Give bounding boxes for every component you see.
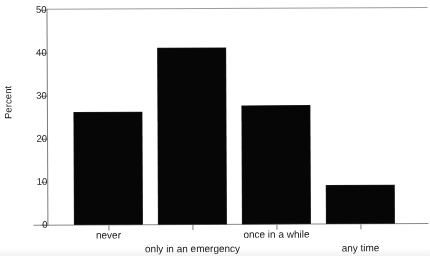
bar-any-time (326, 185, 394, 223)
x-axis-label-only-in-an-emergency: only in an emergency (118, 243, 268, 255)
bar-chart-figure: Percent 0 10 20 30 40 50 never only in a… (0, 0, 430, 256)
y-tick-label-30: 30 (25, 91, 47, 100)
x-tick-mark-any-time (360, 224, 361, 229)
y-axis-title: Percent (2, 72, 13, 132)
y-tick-label-10: 10 (25, 177, 47, 186)
y-axis-line (46, 9, 48, 226)
x-tick-mark-only-in-an-emergency (192, 225, 193, 230)
plot-top-rule (46, 7, 427, 10)
bar-once-in-a-while (242, 106, 311, 224)
y-tick-label-0: 0 (25, 220, 47, 229)
y-tick-label-40: 40 (25, 48, 47, 57)
x-axis-label-once-in-a-while: once in a while (216, 228, 336, 240)
y-tick-label-50: 50 (24, 5, 46, 14)
bar-never (74, 112, 142, 224)
bar-only-in-an-emergency (158, 48, 227, 224)
x-axis-label-any-time: any time (316, 242, 406, 253)
y-tick-label-20: 20 (25, 134, 47, 143)
x-axis-label-never: never (58, 229, 158, 240)
